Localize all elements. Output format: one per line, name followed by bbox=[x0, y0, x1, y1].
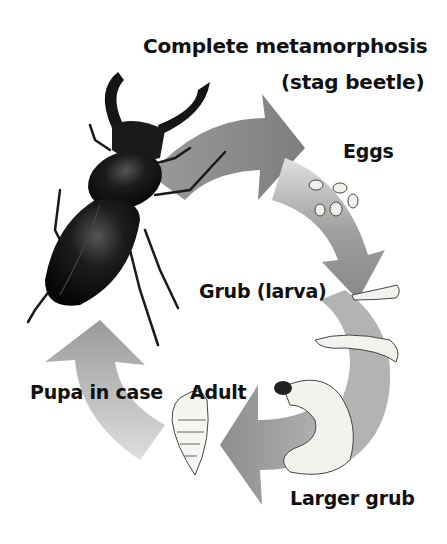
label-grub-larva: Grub (larva) bbox=[199, 280, 327, 302]
pupa-illustration bbox=[172, 391, 208, 475]
diagram-title-line1: Complete metamorphosis bbox=[143, 34, 428, 58]
stag-beetle-illustration bbox=[28, 72, 225, 345]
label-larger-grub: Larger grub bbox=[290, 487, 415, 509]
label-adult: Adult bbox=[190, 381, 246, 403]
diagram-title-line2: (stag beetle) bbox=[281, 70, 424, 94]
label-pupa-in-case: Pupa in case bbox=[30, 381, 163, 403]
arrow-to-grub bbox=[272, 158, 385, 300]
label-eggs: Eggs bbox=[343, 140, 394, 162]
